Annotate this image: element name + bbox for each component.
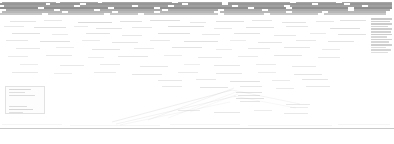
connector-line	[116, 96, 236, 124]
body-text-fragment	[88, 57, 104, 58]
body-text-fragment	[190, 22, 206, 23]
panel-text-run	[9, 92, 25, 93]
body-text-fragment	[258, 42, 282, 43]
connector-line	[234, 96, 296, 108]
body-text-fragment	[168, 26, 204, 27]
rail-list-item[interactable]	[371, 44, 392, 46]
rail-list-item[interactable]	[371, 18, 392, 20]
body-text-fragment	[96, 28, 122, 29]
page-header-band[interactable]	[0, 1, 394, 17]
body-text-fragment	[254, 110, 272, 111]
body-text-fragment	[256, 64, 276, 65]
panel-text-run	[9, 89, 31, 90]
lower-left-panel[interactable]	[5, 86, 45, 114]
body-text-fragment	[274, 35, 296, 36]
rail-list-item[interactable]	[371, 52, 388, 54]
body-text-fragment	[338, 34, 366, 35]
body-text-fragment	[118, 56, 148, 57]
body-text-fragment	[214, 28, 232, 29]
body-text-fragment	[92, 49, 120, 50]
body-text-fragment	[158, 80, 182, 81]
body-text-fragment	[150, 20, 180, 21]
body-text-fragment	[258, 72, 276, 73]
body-text-fragment	[198, 57, 222, 58]
body-text-fragment	[86, 33, 110, 34]
footer-text-run	[248, 125, 332, 126]
body-text-fragment	[294, 74, 322, 75]
body-text-fragment	[172, 47, 202, 48]
header-text-run	[144, 13, 218, 14]
body-text-fragment	[284, 113, 308, 114]
body-text-fragment	[328, 41, 354, 42]
body-text-fragment	[322, 49, 340, 50]
rail-list-item[interactable]	[371, 23, 392, 25]
body-text-fragment	[60, 65, 84, 66]
page-body-content	[0, 0, 394, 144]
rail-list-item[interactable]	[371, 31, 391, 33]
rail-list-item[interactable]	[371, 49, 391, 51]
body-text-fragment	[112, 42, 138, 43]
header-text-run	[270, 13, 318, 14]
body-text-fragment	[246, 27, 274, 28]
body-text-fragment	[12, 72, 38, 73]
rail-list-item[interactable]	[371, 39, 392, 41]
header-text-run	[324, 13, 386, 14]
rail-list-item[interactable]	[371, 26, 388, 28]
body-text-fragment	[230, 81, 260, 82]
rail-list-item[interactable]	[371, 36, 387, 38]
body-text-fragment	[132, 74, 162, 75]
body-text-fragment	[8, 56, 28, 57]
body-text-fragment	[54, 73, 72, 74]
body-text-fragment	[236, 98, 264, 99]
rail-list-item[interactable]	[371, 41, 389, 43]
connector-line	[112, 90, 232, 122]
rail-list-item[interactable]	[371, 47, 386, 49]
rail-list-item[interactable]	[371, 34, 392, 36]
body-text-fragment	[34, 27, 66, 28]
body-text-fragment	[274, 55, 302, 56]
body-text-fragment	[158, 33, 190, 34]
body-text-fragment	[140, 66, 168, 67]
footer-text-run	[170, 124, 240, 125]
body-text-fragment	[6, 40, 28, 41]
body-text-fragment	[214, 65, 240, 66]
body-text-fragment	[200, 87, 228, 88]
body-text-fragment	[286, 104, 310, 105]
rail-list-item[interactable]	[371, 28, 392, 30]
body-text-fragment	[74, 26, 88, 27]
body-text-fragment	[310, 33, 326, 34]
body-text-fragment	[20, 64, 38, 65]
connector-line	[120, 102, 230, 125]
body-text-fragment	[240, 101, 260, 102]
header-text-run	[224, 13, 264, 14]
rail-list-item[interactable]	[371, 21, 390, 23]
body-text-fragment	[52, 34, 68, 35]
body-text-fragment	[164, 55, 182, 56]
body-text-fragment	[178, 72, 198, 73]
body-text-fragment	[196, 79, 216, 80]
right-rail-list[interactable]	[371, 18, 393, 76]
body-text-fragment	[16, 48, 40, 49]
body-text-fragment	[150, 40, 170, 41]
body-text-fragment	[230, 40, 246, 41]
body-text-fragment	[10, 21, 36, 22]
body-text-fragment	[184, 64, 200, 65]
body-text-fragment	[134, 48, 154, 49]
body-text-fragment	[296, 40, 316, 41]
body-text-fragment	[284, 47, 310, 48]
body-text-fragment	[248, 48, 270, 49]
connector-line	[190, 94, 238, 112]
body-text-fragment	[272, 80, 290, 81]
footer-text-run	[2, 124, 62, 125]
body-text-fragment	[318, 57, 340, 58]
footer-text-run	[338, 124, 390, 125]
footer-content	[0, 0, 394, 144]
body-text-fragment	[286, 26, 308, 27]
body-text-fragment	[330, 28, 360, 29]
body-text-fragment	[184, 41, 218, 42]
body-text-fragment	[340, 20, 366, 21]
body-text-fragment	[306, 86, 330, 87]
page-viewport[interactable]: zoomed-out-web-page Page rendered at ext…	[0, 0, 394, 144]
panel-text-run	[9, 112, 23, 113]
body-text-fragment	[282, 22, 306, 23]
